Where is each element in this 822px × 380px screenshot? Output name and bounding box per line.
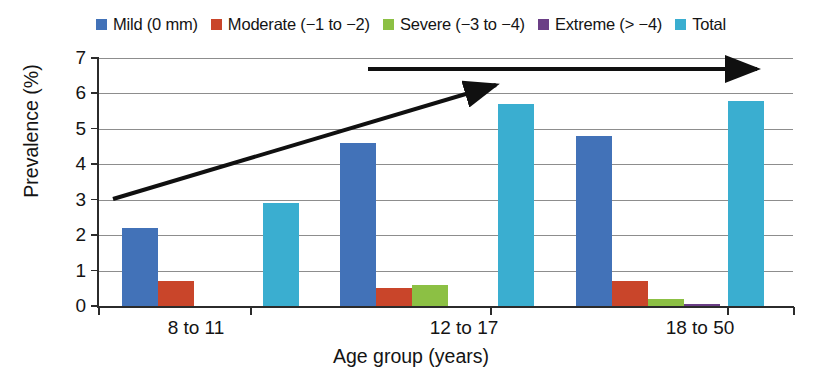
- x-axis-line: [97, 306, 794, 308]
- legend-item-label: Mild (0 mm): [113, 15, 198, 33]
- x-tick-mark: [727, 307, 729, 315]
- x-tick-mark: [490, 307, 492, 315]
- bar-8-to-11-moderate-to: [158, 281, 194, 306]
- x-axis-title: Age group (years): [0, 345, 822, 367]
- legend-item-label: Severe (−3 to −4): [400, 15, 525, 33]
- legend-item-label: Total: [692, 15, 726, 33]
- legend-swatch-icon: [96, 19, 107, 30]
- legend-item[interactable]: Mild (0 mm): [96, 15, 198, 33]
- bar-18-to-50-severe-to: [648, 299, 684, 306]
- legend-item[interactable]: Extreme (> −4): [538, 15, 662, 33]
- gridline: [98, 200, 793, 201]
- x-tick-mark: [250, 307, 252, 315]
- legend-item[interactable]: Moderate (−1 to −2): [211, 15, 370, 33]
- gridline: [98, 129, 793, 130]
- legend-swatch-icon: [675, 19, 686, 30]
- y-tick-label: 2: [58, 225, 86, 244]
- bar-18-to-50-moderate-to: [612, 281, 648, 306]
- bar-8-to-11-total: [263, 203, 299, 306]
- gridline: [98, 271, 793, 272]
- gridline: [98, 164, 793, 165]
- bar-12-to-17-severe-to: [412, 285, 448, 306]
- bar-chart: Mild (0 mm)Moderate (−1 to −2)Severe (−3…: [0, 0, 822, 380]
- legend-swatch-icon: [383, 19, 394, 30]
- legend-swatch-icon: [211, 19, 222, 30]
- legend-item-label: Moderate (−1 to −2): [228, 15, 370, 33]
- x-tick-label: 8 to 11: [168, 317, 225, 339]
- bar-18-to-50-mild-mm: [576, 136, 612, 306]
- y-tick-label: 7: [58, 48, 86, 67]
- bar-12-to-17-mild-mm: [340, 143, 376, 306]
- chart-legend: Mild (0 mm)Moderate (−1 to −2)Severe (−3…: [0, 11, 822, 37]
- gridline: [98, 93, 793, 94]
- y-axis-line: [97, 57, 99, 307]
- plot-area: [98, 58, 793, 306]
- legend-item[interactable]: Severe (−3 to −4): [383, 15, 525, 33]
- bar-18-to-50-total: [728, 101, 764, 306]
- y-tick-label: 5: [58, 119, 86, 138]
- x-tick-mark: [98, 307, 100, 315]
- y-tick-label: 0: [58, 296, 86, 315]
- y-tick-label: 4: [58, 154, 86, 173]
- x-tick-label: 12 to 17: [430, 317, 499, 339]
- gridline: [98, 58, 793, 59]
- legend-item[interactable]: Total: [675, 15, 726, 33]
- x-tick-mark: [793, 307, 795, 315]
- y-tick-label: 1: [58, 261, 86, 280]
- bar-12-to-17-total: [498, 104, 534, 306]
- bar-8-to-11-mild-mm: [122, 228, 158, 306]
- bar-12-to-17-moderate-to: [376, 288, 412, 306]
- x-tick-label: 18 to 50: [666, 317, 735, 339]
- legend-swatch-icon: [538, 19, 549, 30]
- legend-item-label: Extreme (> −4): [555, 15, 662, 33]
- gridline: [98, 235, 793, 236]
- y-tick-label: 6: [58, 83, 86, 102]
- y-axis-title: Prevalence (%): [20, 26, 42, 236]
- y-tick-label: 3: [58, 190, 86, 209]
